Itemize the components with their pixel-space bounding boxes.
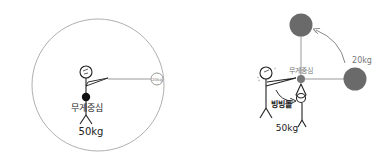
rotation-arrow — [316, 30, 345, 63]
small-mass: 20kg — [151, 73, 163, 85]
arm-rope — [86, 78, 151, 86]
right-panel: 20kg 무게중심 빙빙돌 50kg — [257, 14, 372, 134]
mass-top — [290, 14, 313, 37]
center-of-gravity-diagram: 20kg 무게중심 50kg 20kg 무게중심 — [0, 0, 392, 165]
rotation-label: 빙빙돌 — [271, 99, 293, 109]
mass-label: 20kg — [352, 56, 372, 65]
person-weight-label: 50kg — [79, 126, 104, 137]
thrower-head — [260, 67, 272, 79]
center-of-gravity-pivot — [297, 75, 305, 83]
left-panel: 20kg 무게중심 50kg — [32, 19, 164, 151]
hanging-figure — [296, 84, 306, 127]
mass-right — [344, 68, 367, 91]
small-mass-label: 20kg — [152, 77, 162, 82]
center-of-gravity-label: 무게중심 — [71, 103, 103, 113]
center-of-gravity-dot — [82, 93, 90, 101]
figure-head — [80, 66, 92, 78]
person-weight-label: 50kg — [276, 123, 298, 133]
center-of-gravity-label: 무게중심 — [289, 66, 313, 75]
